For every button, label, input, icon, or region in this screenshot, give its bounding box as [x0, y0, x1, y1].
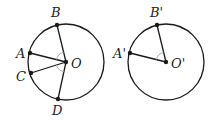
circles-diagram: B A C D O B' A' O' [0, 0, 215, 121]
label-B: B [50, 5, 61, 20]
radius-O'A' [130, 53, 166, 62]
right-circle-group: B' A' O' [112, 5, 204, 100]
point-C [29, 71, 33, 75]
label-C: C [16, 69, 26, 84]
radius-OC [31, 62, 66, 73]
point-A-prime [128, 51, 132, 55]
point-D [56, 97, 60, 101]
label-B-prime: B' [149, 5, 163, 20]
label-O-prime: O' [171, 56, 185, 71]
angle-COD-mark [56, 65, 64, 72]
point-B [55, 23, 59, 27]
point-A [28, 51, 32, 55]
point-B-prime [155, 23, 159, 27]
point-O-prime [164, 60, 168, 64]
label-A-prime: A' [112, 46, 126, 61]
label-O: O [71, 56, 82, 71]
label-A: A [15, 46, 25, 61]
label-D: D [51, 103, 63, 118]
radius-OB [57, 25, 66, 62]
radius-OD [58, 62, 66, 99]
angle-A'O'B'-mark [156, 52, 163, 59]
radius-O'B' [157, 25, 166, 62]
point-O [64, 60, 68, 64]
angle-AOB-mark [56, 52, 63, 59]
left-circle-group: B A C D O [15, 5, 104, 118]
radius-OA [30, 53, 66, 62]
